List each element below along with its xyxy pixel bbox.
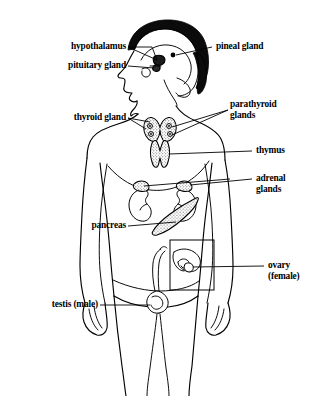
jaw-neck-line bbox=[131, 101, 138, 116]
cerebellum-line bbox=[176, 78, 190, 97]
face-profile bbox=[118, 51, 137, 102]
pineal-gland-organ bbox=[171, 53, 176, 58]
label-thymus: thymus bbox=[256, 145, 314, 156]
hip-line bbox=[113, 280, 199, 291]
label-pancreas: pancreas bbox=[42, 220, 126, 231]
label-pineal-gland: pineal gland bbox=[216, 41, 308, 52]
label-ovary-female: ovary (female) bbox=[268, 260, 316, 282]
leader-ovary bbox=[193, 266, 264, 267]
left-leg-inner bbox=[147, 314, 157, 396]
label-adrenal-glands: adrenal glands bbox=[256, 173, 314, 195]
right-leg-outline bbox=[189, 296, 198, 396]
head-group bbox=[118, 20, 209, 116]
testis-organ bbox=[147, 291, 168, 313]
left-leg-outline bbox=[114, 296, 126, 396]
right-hand-outline bbox=[206, 303, 230, 335]
leader-parathyroid-2 bbox=[172, 110, 228, 135]
vas-deferens-line-2 bbox=[158, 251, 165, 291]
right-leg-inner bbox=[160, 314, 169, 396]
right-hand-fingers bbox=[211, 306, 224, 330]
thymus-organ bbox=[151, 140, 170, 167]
label-testis-male: testis (male) bbox=[14, 299, 98, 310]
leader-thymus bbox=[169, 151, 252, 154]
label-parathyroid-glands: parathyroid glands bbox=[230, 99, 314, 121]
ovary-organ bbox=[184, 263, 193, 272]
leader-parathyroid bbox=[172, 110, 228, 127]
ear-line bbox=[142, 68, 151, 77]
label-pituitary-gland: pituitary gland bbox=[30, 60, 126, 71]
brainstem-line bbox=[164, 80, 177, 106]
hypothalamus-organ bbox=[153, 55, 165, 65]
label-hypothalamus: hypothalamus bbox=[38, 41, 126, 52]
endocrine-diagram-figure: hypothalamus pituitary gland pineal glan… bbox=[0, 0, 316, 396]
brain-inner-line bbox=[141, 45, 191, 84]
kidney-left-organ bbox=[129, 190, 151, 221]
organ-group bbox=[129, 117, 214, 313]
label-thyroid-gland: thyroid gland bbox=[36, 112, 126, 123]
thyroid-organ bbox=[144, 117, 177, 141]
vas-deferens-line bbox=[153, 249, 161, 291]
